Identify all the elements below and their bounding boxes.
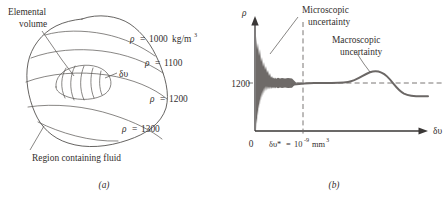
panel-b-tag: (b) xyxy=(329,180,340,191)
x-axis-label: δυ xyxy=(433,126,442,136)
figure-container: Elemental volume δυ ρ = 1000 kg/m 3 ρ = … xyxy=(0,0,448,204)
microscopic-uncertainty-spikes xyxy=(256,36,274,83)
svg-text:=: = xyxy=(140,34,145,44)
svg-text:=: = xyxy=(155,58,160,68)
svg-text:=: = xyxy=(132,124,137,134)
svg-text:ρ: ρ xyxy=(129,34,135,44)
elemental-volume-shape xyxy=(56,65,111,100)
region-containing-fluid-label: Region containing fluid xyxy=(32,153,121,163)
svg-text:1000: 1000 xyxy=(149,34,168,44)
microscopic-uncertainty-label-line1: Microscopic xyxy=(302,5,349,15)
y-tick-label-1200: 1200 xyxy=(231,79,250,89)
elemental-volume-label-line2: volume xyxy=(19,19,47,29)
svg-text:δυ*: δυ* xyxy=(269,140,281,149)
region-leader-line xyxy=(30,126,44,150)
contour-label-1200: ρ = 1200 xyxy=(149,94,188,104)
svg-text:1100: 1100 xyxy=(164,58,183,68)
svg-text:ρ: ρ xyxy=(121,124,127,134)
svg-text:ρ: ρ xyxy=(149,94,155,104)
contour-line-1200 xyxy=(26,73,167,99)
panel-a-svg: Elemental volume δυ ρ = 1000 kg/m 3 ρ = … xyxy=(0,0,224,204)
svg-text:-9: -9 xyxy=(304,136,309,143)
delta-u-label: δυ xyxy=(119,69,128,79)
svg-text:kg/m: kg/m xyxy=(172,34,192,44)
contour-label-1300: ρ = 1300 xyxy=(121,124,160,134)
contour-line-bottom xyxy=(38,122,118,141)
svg-text:1300: 1300 xyxy=(141,124,160,134)
y-axis-arrowhead xyxy=(251,16,258,26)
contour-line-1100 xyxy=(31,50,163,73)
svg-text:mm: mm xyxy=(312,140,326,149)
microscopic-uncertainty-label-line2: uncertainty xyxy=(308,17,350,27)
panel-b-density-plot: ρ δυ 1200 0 δυ* = 10 -9 mm 3 Microscopic… xyxy=(224,0,448,204)
svg-text:3: 3 xyxy=(194,31,197,38)
origin-label: 0 xyxy=(249,139,254,149)
microscopic-uncertainty-leader-line xyxy=(270,17,298,54)
elemental-volume-label-line1: Elemental xyxy=(8,7,46,17)
svg-text:=: = xyxy=(160,94,165,104)
x-tick-label-delta-u-star: δυ* = 10 -9 mm 3 xyxy=(269,136,329,149)
y-axis-label: ρ xyxy=(241,8,247,18)
x-axis xyxy=(255,127,428,134)
panel-b-svg: ρ δυ 1200 0 δυ* = 10 -9 mm 3 Microscopic… xyxy=(224,0,448,204)
svg-text:10: 10 xyxy=(294,140,302,149)
svg-text:ρ: ρ xyxy=(144,58,150,68)
contour-label-1100: ρ = 1100 xyxy=(144,58,183,68)
x-axis-arrowhead xyxy=(419,127,429,134)
microscopic-uncertainty-band xyxy=(256,40,303,131)
delta-u-leader-line xyxy=(105,73,117,78)
svg-text:1200: 1200 xyxy=(169,94,188,104)
density-curve xyxy=(292,71,428,96)
svg-text:=: = xyxy=(286,140,291,149)
macroscopic-uncertainty-label-line1: Macroscopic xyxy=(332,35,380,45)
panel-a-tag: (a) xyxy=(99,180,110,191)
contour-label-1000: ρ = 1000 kg/m 3 xyxy=(129,31,197,44)
contour-line-1000 xyxy=(45,31,155,56)
macroscopic-uncertainty-label-line2: uncertainty xyxy=(340,47,382,57)
svg-text:3: 3 xyxy=(326,136,329,143)
panel-a-fluid-region: Elemental volume δυ ρ = 1000 kg/m 3 ρ = … xyxy=(0,0,224,204)
